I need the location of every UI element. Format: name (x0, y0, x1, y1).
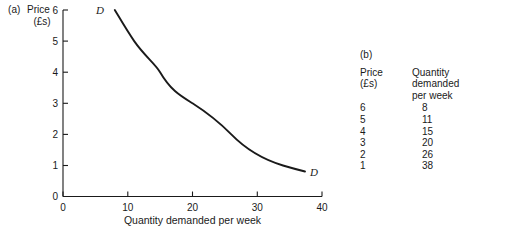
cell-price: 2 (360, 149, 412, 161)
curve-label-bottom: D (309, 166, 318, 178)
table-row: 5 11 (360, 114, 482, 126)
x-axis-ticks (63, 192, 322, 197)
x-tick-label: 20 (187, 202, 199, 213)
cell-price: 4 (360, 126, 412, 138)
y-tick-label: 4 (52, 67, 58, 78)
table-header-row: Price (£s) Quantity demanded per week (360, 67, 482, 102)
y-axis-tick-labels: 6 5 4 3 2 1 0 (52, 5, 58, 203)
y-tick-label: 6 (52, 5, 58, 16)
x-tick-label: 30 (252, 202, 264, 213)
table-row: 1 38 (360, 160, 482, 172)
y-tick-label: 1 (52, 160, 58, 171)
table-header-price: Price (£s) (360, 67, 412, 102)
curve-label-top: D (95, 4, 104, 16)
cell-quantity: 11 (412, 114, 482, 126)
table-header-price-line1: Price (360, 67, 383, 78)
figure-container: (a) Price (£s) 6 5 4 3 2 1 0 (0, 0, 515, 235)
x-tick-label: 40 (316, 202, 328, 213)
x-tick-label: 0 (60, 202, 66, 213)
table-row: 2 26 (360, 149, 482, 161)
cell-price: 6 (360, 101, 412, 114)
y-tick-label: 5 (52, 36, 58, 47)
cell-price: 1 (360, 160, 412, 172)
demand-schedule-table: Price (£s) Quantity demanded per week 6 … (360, 67, 482, 172)
y-tick-label: 2 (52, 129, 58, 140)
x-axis-tick-labels: 0 10 20 30 40 (60, 202, 328, 213)
cell-price: 5 (360, 114, 412, 126)
table-header-price-line2: (£s) (360, 78, 412, 90)
cell-quantity: 20 (412, 137, 482, 149)
demand-curve-path (115, 10, 305, 172)
table-row: 4 15 (360, 126, 482, 138)
x-tick-label: 10 (122, 202, 134, 213)
table-header-quantity-line2: per week (412, 90, 482, 102)
panel-b-tag: (b) (360, 49, 482, 61)
y-axis-ticks (63, 10, 68, 166)
table-row: 6 8 (360, 101, 482, 114)
table-header-quantity: Quantity demanded per week (412, 67, 482, 102)
panel-b: (b) Price (£s) Quantity demanded per wee… (360, 49, 482, 172)
cell-price: 3 (360, 137, 412, 149)
x-axis-title: Quantity demanded per week (63, 214, 322, 226)
cell-quantity: 15 (412, 126, 482, 138)
table-row: 3 20 (360, 137, 482, 149)
table-header-quantity-line1: Quantity demanded (412, 67, 459, 90)
cell-quantity: 8 (412, 101, 482, 114)
cell-quantity: 26 (412, 149, 482, 161)
y-tick-label: 0 (52, 191, 58, 202)
cell-quantity: 38 (412, 160, 482, 172)
y-tick-label: 3 (52, 98, 58, 109)
